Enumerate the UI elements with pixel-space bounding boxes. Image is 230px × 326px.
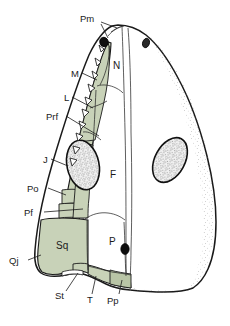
- label-l: L: [64, 92, 69, 103]
- orbit-right: [145, 132, 194, 188]
- fenestrae-group: [62, 132, 194, 193]
- label-st: St: [55, 290, 64, 301]
- label-prf: Prf: [46, 111, 59, 122]
- label-po: Po: [27, 183, 39, 194]
- label-p: P: [109, 236, 116, 247]
- label-group-bottom: St T Pp: [55, 290, 119, 306]
- leader-pm2: [101, 24, 108, 38]
- skull-diagram: Pm M L Prf J Po Pf Qj St T Pp N F Sq P: [0, 0, 230, 326]
- label-sq: Sq: [56, 240, 68, 251]
- label-f: F: [110, 169, 116, 180]
- label-pm: Pm: [80, 13, 94, 24]
- suture-frontal-parietal: [85, 213, 125, 220]
- notch-st: [62, 270, 83, 276]
- label-j: J: [43, 154, 48, 165]
- label-n: N: [113, 60, 120, 71]
- label-pp: Pp: [107, 295, 119, 306]
- label-qj: Qj: [9, 255, 19, 266]
- label-pf: Pf: [24, 207, 33, 218]
- leader-j: [51, 159, 68, 166]
- label-m: M: [71, 68, 79, 79]
- naris-right: [141, 37, 150, 48]
- leader-st: [66, 273, 78, 291]
- label-t: T: [87, 294, 93, 305]
- pineal-foramen: [121, 244, 129, 255]
- suture-premaxilla-2: [111, 26, 123, 32]
